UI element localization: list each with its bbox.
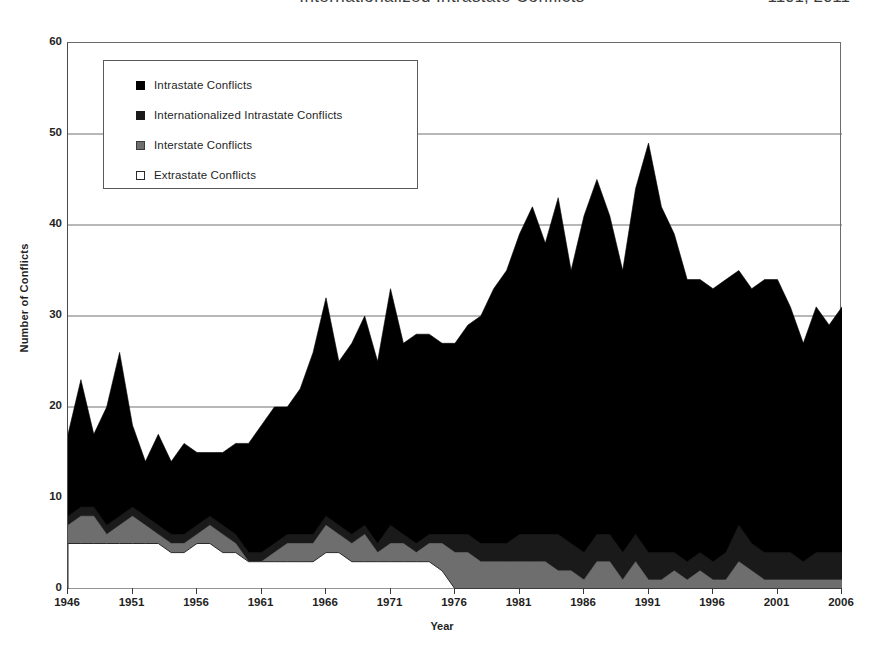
legend-swatch-icon [136,81,145,90]
x-tick-mark [648,588,649,594]
legend-item: Internationalized Intrastate Conflicts [104,100,417,130]
x-tick-mark [454,588,455,594]
y-tick-label: 10 [24,491,62,503]
legend-item: Interstate Conflicts [104,130,417,160]
y-tick-label: 50 [24,127,62,139]
x-tick-label: 1971 [360,596,420,608]
x-tick-label: 1996 [682,596,742,608]
x-tick-label: 1981 [489,596,549,608]
x-tick-label: 1986 [553,596,613,608]
y-tick-label: 0 [24,582,62,594]
x-tick-mark [261,588,262,594]
x-tick-label: 2006 [811,596,871,608]
y-axis-title: Number of Conflicts [18,228,30,368]
x-tick-label: 1976 [424,596,484,608]
x-axis-title: Year [0,620,884,632]
x-tick-label: 1961 [231,596,291,608]
x-tick-mark [519,588,520,594]
x-tick-mark [712,588,713,594]
legend-item-label: Interstate Conflicts [154,139,252,151]
legend-item: Extrastate Conflicts [104,160,417,190]
area-series [68,143,842,589]
x-tick-label: 1991 [618,596,678,608]
legend-item-label: Extrastate Conflicts [154,169,256,181]
chart-legend: Intrastate ConflictsInternationalized In… [103,60,418,189]
legend-swatch-icon [136,171,145,180]
x-tick-label: 1946 [37,596,97,608]
x-tick-mark [583,588,584,594]
legend-item-label: Intrastate Conflicts [154,79,252,91]
area-series-intrastate-conflicts [68,143,842,589]
y-tick-label: 20 [24,400,62,412]
legend-swatch-icon [136,141,145,150]
x-tick-mark [132,588,133,594]
legend-item: Intrastate Conflicts [104,70,417,100]
x-tick-mark [777,588,778,594]
x-tick-mark [390,588,391,594]
legend-swatch-icon [136,111,145,120]
x-tick-mark [196,588,197,594]
y-tick-label: 60 [24,36,62,48]
x-tick-label: 1951 [102,596,162,608]
x-tick-label: 1956 [166,596,226,608]
x-tick-label: 2001 [747,596,807,608]
x-tick-label: 1966 [295,596,355,608]
x-tick-mark [841,588,842,594]
conflicts-area-chart-figure: 0102030405060 Number of Conflicts 194619… [0,0,884,651]
legend-item-label: Internationalized Intrastate Conflicts [154,109,343,121]
x-tick-mark [325,588,326,594]
x-tick-mark [67,588,68,594]
